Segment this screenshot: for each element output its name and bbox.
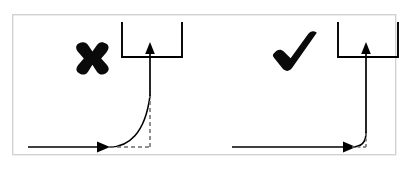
comparison-diagram: [0, 0, 408, 169]
figure-root: [0, 0, 408, 169]
